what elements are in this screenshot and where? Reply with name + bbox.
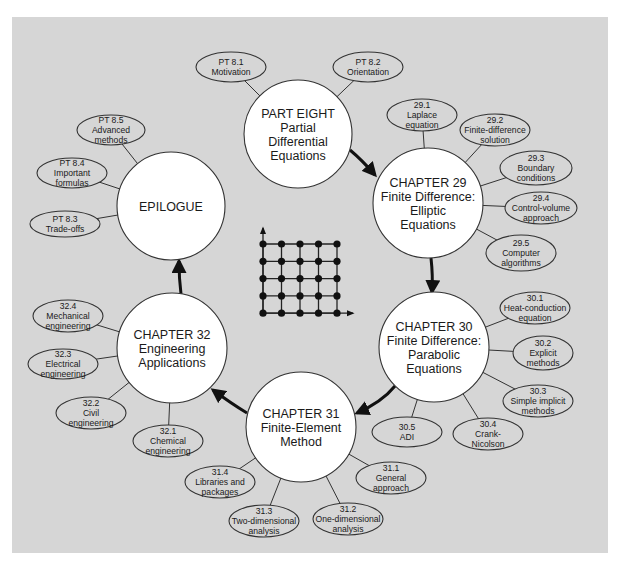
node-chapter-29: CHAPTER 29Finite Difference:EllipticEqua… <box>373 148 483 258</box>
topic-title-line: Crank- <box>475 429 501 439</box>
node-heading: CHAPTER 32 <box>133 328 210 342</box>
grid-node-dot <box>315 258 322 265</box>
topic-title-line: Two-dimensional <box>232 516 297 526</box>
topic-number: 29.5 <box>513 238 530 248</box>
topic-title-line: methods <box>95 135 128 145</box>
topic-32.1: 32.1Chemicalengineering <box>133 425 203 457</box>
node-heading: PART EIGHT <box>261 107 335 121</box>
grid-node-dot <box>315 310 322 317</box>
grid-node-dot <box>278 275 285 282</box>
topic-title-line: formulas <box>56 178 89 188</box>
topic-title-line: Simple implicit <box>511 396 567 406</box>
node-title-line: Method <box>280 435 322 449</box>
topic-title-line: packages <box>202 487 239 497</box>
topic-title-line: Advanced <box>92 125 130 135</box>
grid-node-dot <box>259 310 266 317</box>
node-title-line: Elliptic <box>410 204 446 218</box>
grid-node-dot <box>259 258 266 265</box>
grid-node-dot <box>259 240 266 247</box>
node-chapter-30: CHAPTER 30Finite Difference:ParabolicEqu… <box>379 292 489 402</box>
topic-30.1: 30.1Heat-conductionequation <box>500 292 570 324</box>
topic-number: 31.3 <box>256 506 273 516</box>
grid-node-dot <box>278 292 285 299</box>
node-title-line: Equations <box>406 362 462 376</box>
topic-title-line: algorithms <box>501 258 541 268</box>
node-part-eight: PART EIGHTPartialDifferentialEquations <box>244 80 352 188</box>
topic-title-line: methods <box>522 406 555 416</box>
flow-arrow-chapter-29-to-chapter-30 <box>431 258 432 292</box>
chapter-flow-diagram: PT 8.1MotivationPT 8.2Orientation29.1Lap… <box>0 0 617 569</box>
topic-title-line: equation <box>519 313 552 323</box>
topic-29.2: 29.2Finite-differencesolution <box>460 114 530 146</box>
topic-title-line: equation <box>406 120 439 130</box>
topic-number: 30.2 <box>535 338 552 348</box>
topic-number: 32.3 <box>55 349 72 359</box>
topic-title-line: ADI <box>400 432 414 442</box>
topic-number: 29.1 <box>414 100 431 110</box>
topic-31.4: 31.4Libraries andpackages <box>185 466 255 498</box>
grid-node-dot <box>296 275 303 282</box>
topic-number: 30.5 <box>399 422 416 432</box>
topic-title-line: Heat-conduction <box>504 303 567 313</box>
topic-29.5: 29.5Computeralgorithms <box>486 235 556 271</box>
topic-30.2: 30.2Explicitmethods <box>513 336 573 370</box>
grid-node-dot <box>333 275 340 282</box>
topic-30.3: 30.3Simple implicitmethods <box>503 385 573 417</box>
grid-node-dot <box>296 310 303 317</box>
flow-arrow-part-eight-to-chapter-29 <box>350 150 375 175</box>
topic-number: PT 8.1 <box>218 57 243 67</box>
topic-number: 31.4 <box>212 467 229 477</box>
topic-pt-8.2: PT 8.2Orientation <box>333 52 403 82</box>
node-title-line: Equations <box>400 218 456 232</box>
topic-title-line: Important <box>54 168 91 178</box>
topic-29.4: 29.4Control-volumeapproach <box>505 192 577 224</box>
node-chapter-31: CHAPTER 31Finite-ElementMethod <box>246 372 356 482</box>
flow-arrow-chapter-30-to-chapter-31 <box>357 386 395 413</box>
node-title-line: Parabolic <box>408 348 460 362</box>
topic-30.5: 30.5ADI <box>372 417 442 447</box>
grid-node-dot <box>333 258 340 265</box>
topic-title-line: approach <box>523 213 559 223</box>
topic-title-line: General <box>376 473 407 483</box>
topic-number: 31.1 <box>383 463 400 473</box>
topic-title-line: solution <box>480 135 510 145</box>
topic-title-line: methods <box>527 358 560 368</box>
node-title-line: Applications <box>138 356 205 370</box>
node-epilogue: EPILOGUE <box>117 152 225 260</box>
topic-number: PT 8.2 <box>355 57 380 67</box>
topic-30.4: 30.4Crank-Nicolson <box>453 418 523 450</box>
grid-node-dot <box>315 240 322 247</box>
node-title-line: Finite-Element <box>261 421 342 435</box>
topic-title-line: Nicolson <box>472 439 505 449</box>
topic-pt-8.5: PT 8.5Advancedmethods <box>77 115 145 145</box>
topic-title-line: conditions <box>517 173 556 183</box>
topic-number: 29.2 <box>487 115 504 125</box>
grid-node-dot <box>296 240 303 247</box>
topic-number: 29.4 <box>533 193 550 203</box>
topic-title-line: Libraries and <box>195 477 245 487</box>
node-heading: CHAPTER 29 <box>389 176 466 190</box>
topic-number: PT 8.3 <box>52 214 77 224</box>
topic-title-line: One-dimensional <box>316 514 381 524</box>
topic-pt-8.4: PT 8.4Importantformulas <box>37 158 107 188</box>
topic-title-line: Trade-offs <box>46 224 85 234</box>
grid-node-dot <box>333 240 340 247</box>
flow-arrow-chapter-32-to-epilogue <box>179 261 181 294</box>
topic-29.1: 29.1Laplaceequation <box>387 99 457 131</box>
topic-title-line: engineering <box>146 446 191 456</box>
topic-title-line: Laplace <box>407 110 437 120</box>
topic-title-line: Explicit <box>529 348 557 358</box>
node-title-line: Finite Difference: <box>387 334 481 348</box>
grid-node-dot <box>259 275 266 282</box>
grid-node-dot <box>333 292 340 299</box>
topic-number: PT 8.5 <box>98 115 123 125</box>
topic-number: 32.2 <box>83 398 100 408</box>
topic-title-line: analysis <box>332 524 363 534</box>
topic-title-line: Chemical <box>150 436 186 446</box>
topic-number: 32.4 <box>60 301 77 311</box>
topic-32.3: 32.3Electricalengineering <box>28 349 98 379</box>
flow-arrow-chapter-31-to-chapter-32 <box>213 390 247 413</box>
topic-29.3: 29.3Boundaryconditions <box>500 151 572 185</box>
topic-title-line: analysis <box>248 526 279 536</box>
topic-title-line: approach <box>373 483 409 493</box>
